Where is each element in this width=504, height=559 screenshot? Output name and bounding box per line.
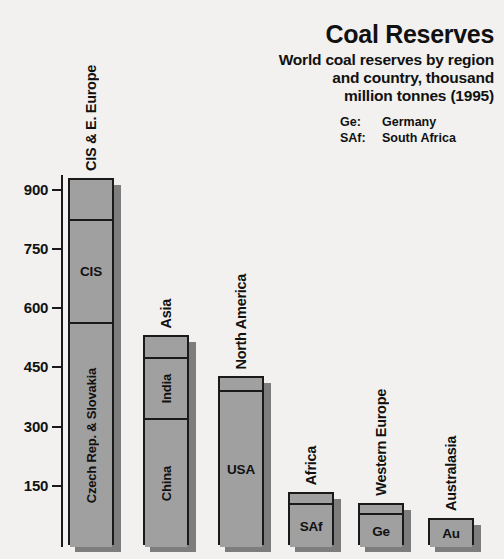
bar-group[interactable]: SAfAfrica <box>288 492 334 545</box>
bar-group-label-text: North America <box>233 274 249 369</box>
bar-segment[interactable]: Ge <box>360 515 402 547</box>
legend-key: SAf: <box>340 130 382 146</box>
legend-value: Germany <box>382 114 478 130</box>
bar-group[interactable]: IndiaChinaAsia <box>143 335 189 545</box>
y-tick-label: 900 <box>24 181 48 198</box>
bar-stack: USA <box>218 376 264 545</box>
y-axis-line <box>61 175 63 547</box>
bar-segment-label: Ge <box>372 524 390 539</box>
legend-item: SAf: South Africa <box>226 130 478 146</box>
bar-stack: CISCzech Rep. & Slovakia <box>68 178 114 545</box>
bar-group[interactable]: CISCzech Rep. & SlovakiaCIS & E. Europe <box>68 178 114 545</box>
bar-segment-label: Czech Rep. & Slovakia <box>84 368 99 503</box>
bar-segment[interactable]: China <box>145 420 187 547</box>
bar-group-label-text: Western Europe <box>373 389 389 496</box>
bar-segment[interactable]: SAf <box>290 505 332 547</box>
bar-group-label-text: Australasia <box>443 436 459 511</box>
bar-stack: IndiaChina <box>143 335 189 545</box>
bar-segment[interactable] <box>70 180 112 221</box>
subtitle-line-2: and country, thousand <box>226 69 494 87</box>
bar-segment-label: India <box>159 374 174 403</box>
bar-group[interactable]: GeWestern Europe <box>358 503 404 545</box>
bar-stack: Au <box>428 518 474 545</box>
abbreviation-legend: Ge: Germany SAf: South Africa <box>226 114 478 147</box>
bar-group-label: North America <box>218 274 264 376</box>
bar-segment[interactable] <box>145 337 187 359</box>
bar-group-label-text: Asia <box>158 299 174 328</box>
bar-segment[interactable]: Au <box>430 520 472 547</box>
bar-segment-label: USA <box>227 462 255 477</box>
subtitle-line-3: million tonnes (1995) <box>226 87 494 105</box>
bar-group-label: Australasia <box>428 436 474 518</box>
bar-group-label: Asia <box>143 299 189 335</box>
legend-value: South Africa <box>382 130 478 146</box>
legend-item: Ge: Germany <box>226 114 478 130</box>
y-tick-mark <box>52 248 61 250</box>
y-tick-mark <box>52 366 61 368</box>
y-tick-label: 300 <box>24 418 48 435</box>
legend-key: Ge: <box>340 114 382 130</box>
bar-stack: SAf <box>288 492 334 545</box>
y-tick-mark <box>52 485 61 487</box>
bar-segment[interactable]: Czech Rep. & Slovakia <box>70 324 112 547</box>
title-block: Coal Reserves World coal reserves by reg… <box>226 22 494 146</box>
bar-segment[interactable] <box>360 505 402 515</box>
chart-subtitle: World coal reserves by region and countr… <box>226 51 494 105</box>
bar-stack: Ge <box>358 503 404 545</box>
bar-segment-label: SAf <box>300 519 323 534</box>
bar-group-label-text: CIS & E. Europe <box>83 65 99 171</box>
bar-segment-label: Au <box>442 526 460 541</box>
bar-group-label: CIS & E. Europe <box>68 65 114 178</box>
bar-segment-label: CIS <box>80 264 102 279</box>
page-title: Coal Reserves <box>226 22 494 48</box>
bar-group[interactable]: USANorth America <box>218 376 264 545</box>
bar-group-label-text: Africa <box>303 446 319 485</box>
y-tick-mark <box>52 189 61 191</box>
bar-segment[interactable] <box>290 494 332 505</box>
bar-segment[interactable]: India <box>145 359 187 420</box>
bar-segment[interactable] <box>220 378 262 392</box>
y-tick-label: 450 <box>24 358 48 375</box>
y-tick-mark <box>52 426 61 428</box>
bar-group-label: Western Europe <box>358 389 404 503</box>
y-tick-label: 750 <box>24 240 48 257</box>
coal-reserves-chart: Coal Reserves World coal reserves by reg… <box>0 0 504 559</box>
bar-segment[interactable]: USA <box>220 392 262 547</box>
subtitle-line-1: World coal reserves by region <box>226 51 494 69</box>
y-tick-label: 150 <box>24 477 48 494</box>
bar-segment-label: China <box>159 466 174 501</box>
bar-group[interactable]: AuAustralasia <box>428 518 474 545</box>
bar-segment[interactable]: CIS <box>70 221 112 324</box>
y-tick-label: 600 <box>24 299 48 316</box>
y-tick-mark <box>52 307 61 309</box>
bar-group-label: Africa <box>288 446 334 492</box>
